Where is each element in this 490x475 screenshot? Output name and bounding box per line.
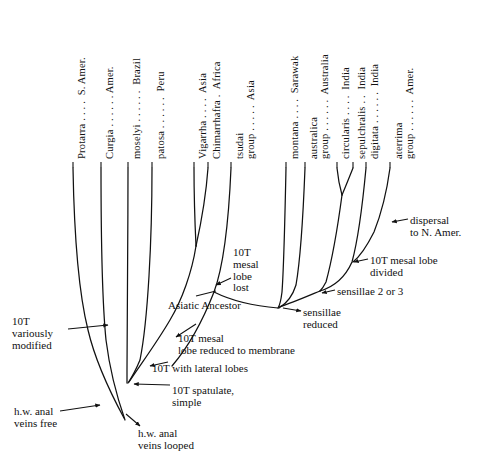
taxon-label-sepulchralis: sepulchralis . . India	[357, 67, 368, 159]
annotation-10t-spatulate-simple: 10T spatulate, simple	[172, 385, 234, 409]
taxon-label-tsudai-group: group . . . . . Asia	[246, 80, 257, 159]
branch-vigarrha	[194, 168, 196, 246]
arrow-hw-anal-free	[60, 405, 100, 411]
arrow-sensillae-23	[322, 290, 335, 293]
arrow-anal-looped	[126, 414, 140, 426]
annotation-asiatic-ancestor: Asiatic Ancestor	[168, 300, 241, 312]
branch-circ-stem	[320, 195, 342, 291]
taxon-label-aterrima-group: aterrima	[394, 122, 405, 159]
annotation-hw-anal-veins-looped: h.w. anal veins looped	[138, 428, 194, 452]
branch-sensillae23	[279, 291, 320, 307]
tree-diagram-canvas: Protarra . . . . S. Amer.Curgia . . . . …	[0, 0, 490, 475]
taxon-label-australica-group: group . . . . . . Australia	[320, 54, 331, 159]
branch-montana	[278, 168, 286, 308]
branch-sepulchralis	[342, 168, 353, 195]
taxon-label-curgia: Curgia . . . . . . Amer.	[105, 66, 116, 159]
branch-circularis	[337, 168, 342, 195]
taxon-label-protarra: Protarra . . . . S. Amer.	[77, 57, 88, 159]
annotation-10t-variously-modified: 10T variously modified	[12, 316, 53, 351]
taxon-label-patosa: patosa . . . . . . Peru	[156, 71, 167, 159]
annotation-10t-mesal-lobe-lost: 10T mesal lobe lost	[233, 247, 259, 294]
arrow-dispersal	[392, 219, 408, 222]
branch-patosa	[128, 168, 152, 383]
annotation-sensillae-2-or-3: sensillae 2 or 3	[337, 286, 403, 298]
taxon-label-chimarrhafra: Chimarrhafra . Africa	[212, 61, 223, 159]
taxon-label-australica-group: australica	[309, 117, 320, 159]
annotation-dispersal-to-n-amer: dispersal to N. Amer.	[410, 215, 461, 239]
taxon-label-digitata: digitata . . . . . . India	[370, 64, 381, 159]
taxon-label-vigarrha: Vigarrha . . . . Asia	[198, 73, 209, 159]
arrow-sensillae-reduced	[283, 308, 301, 311]
branch-digitata	[320, 168, 366, 291]
branch-protarra	[73, 168, 124, 418]
annotation-sensillae-reduced: sensillae reduced	[303, 307, 341, 331]
arrow-spatulate	[134, 384, 170, 385]
annotation-10t-with-lateral-lobes: 10T with lateral lobes	[152, 363, 248, 375]
annotation-hw-anal-veins-free: h.w. anal veins free	[14, 406, 57, 430]
branch-chimarrhafra	[196, 168, 208, 246]
taxon-label-montana: montana . . . . Sarawak	[290, 56, 301, 159]
branch-moselyi	[127, 168, 128, 383]
taxon-label-moselyi: moselyi . . . . . . Brazil	[132, 58, 143, 159]
branch-aterrima	[353, 168, 390, 262]
annotation-10t-mesal-lobe-reduced: 10T mesal lobe reduced to membrane	[178, 333, 295, 357]
taxon-label-aterrima-group: group . . . . . . Amer.	[405, 68, 416, 159]
branch-curgia	[101, 168, 125, 420]
taxon-label-circularis: circularis . . . . India	[341, 67, 352, 159]
annotation-10t-mesal-lobe-divided: 10T mesal lobe divided	[370, 255, 438, 279]
taxon-label-tsudai-group: tsudai	[235, 133, 246, 159]
tip-tick-layer	[73, 162, 390, 168]
